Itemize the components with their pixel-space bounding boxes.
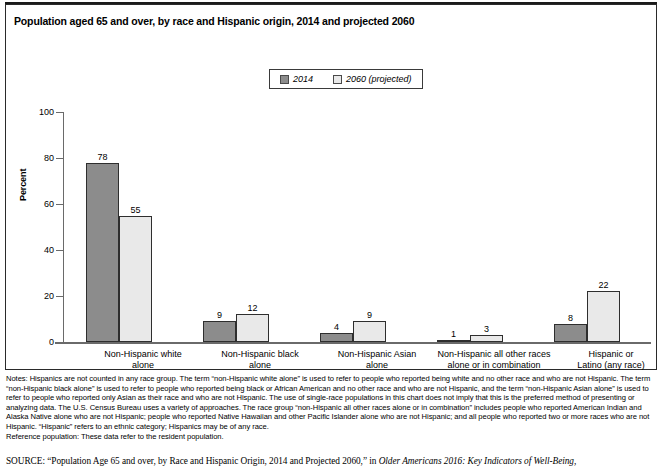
chart-legend: 2014 2060 (projected) <box>269 69 423 89</box>
bar-value-label: 1 <box>451 329 456 339</box>
x-axis-label: Hispanic orLatino (any race) <box>541 349 662 371</box>
y-tick-mark <box>56 342 63 343</box>
y-axis-line <box>63 112 64 343</box>
bar-group: 49 <box>308 112 422 342</box>
legend-label-2014: 2014 <box>293 74 313 84</box>
bar-2014[interactable]: 9 <box>203 321 236 342</box>
bar-2014[interactable]: 78 <box>86 163 119 342</box>
chart-notes: Notes: Hispanics are not counted in any … <box>6 374 656 441</box>
source-citation: “Population Age 65 and over, by Race and… <box>47 456 376 466</box>
y-tick-mark <box>56 296 63 297</box>
bar-value-label: 78 <box>97 152 107 162</box>
bar-2060-projected-[interactable]: 55 <box>119 216 152 343</box>
y-tick-mark <box>56 250 63 251</box>
y-tick-label: 60 <box>44 199 54 209</box>
bar-2060-projected-[interactable]: 22 <box>587 291 620 342</box>
y-tick-label: 100 <box>39 107 54 117</box>
bar-2014[interactable]: 8 <box>554 324 587 342</box>
source-publication: Older Americans 2016: Key Indicators of … <box>379 456 577 466</box>
bar-group: 822 <box>542 112 656 342</box>
bar-group: 13 <box>425 112 539 342</box>
chart-source: SOURCE: “Population Age 65 and over, by … <box>6 456 656 467</box>
y-tick-label: 20 <box>44 291 54 301</box>
bar-2060-projected-[interactable]: 9 <box>353 321 386 342</box>
bar-2060-projected-[interactable]: 12 <box>236 314 269 342</box>
chart-figure: Population aged 65 and over, by race and… <box>5 4 657 370</box>
legend-swatch-2014 <box>280 75 289 84</box>
bar-value-label: 9 <box>217 310 222 320</box>
y-tick-label: 80 <box>44 153 54 163</box>
bar-value-label: 9 <box>367 310 372 320</box>
bar-value-label: 3 <box>484 324 489 334</box>
x-axis-line <box>55 342 651 344</box>
bar-value-label: 22 <box>598 280 608 290</box>
notes-body: Notes: Hispanics are not counted in any … <box>6 374 656 432</box>
legend-label-2060: 2060 (projected) <box>346 74 412 84</box>
y-axis-title: Percent <box>18 169 28 201</box>
bar-value-label: 55 <box>130 205 140 215</box>
y-tick-mark <box>56 112 63 113</box>
y-tick-label: 40 <box>44 245 54 255</box>
x-axis-label-line: Latino (any race) <box>541 360 662 371</box>
notes-reference: Reference population: These data refer t… <box>6 432 656 442</box>
page-title: Population aged 65 and over, by race and… <box>14 15 414 27</box>
bar-2014[interactable]: 1 <box>437 340 470 342</box>
bar-value-label: 8 <box>568 313 573 323</box>
y-tick-mark <box>56 158 63 159</box>
plot-area: 020406080100 78559124913822 Non-Hispanic… <box>63 112 651 342</box>
bar-group: 7855 <box>74 112 188 342</box>
legend-item-2014: 2014 <box>280 74 313 84</box>
bar-2060-projected-[interactable]: 3 <box>470 335 503 342</box>
legend-swatch-2060 <box>333 75 342 84</box>
x-axis-label-line: Hispanic or <box>541 349 662 360</box>
y-tick-mark <box>56 204 63 205</box>
bar-value-label: 4 <box>334 322 339 332</box>
legend-item-2060: 2060 (projected) <box>333 74 412 84</box>
source-label: SOURCE: <box>6 456 45 466</box>
bar-value-label: 12 <box>247 303 257 313</box>
y-tick-label: 0 <box>49 337 54 347</box>
bar-2014[interactable]: 4 <box>320 333 353 342</box>
bar-group: 912 <box>191 112 305 342</box>
